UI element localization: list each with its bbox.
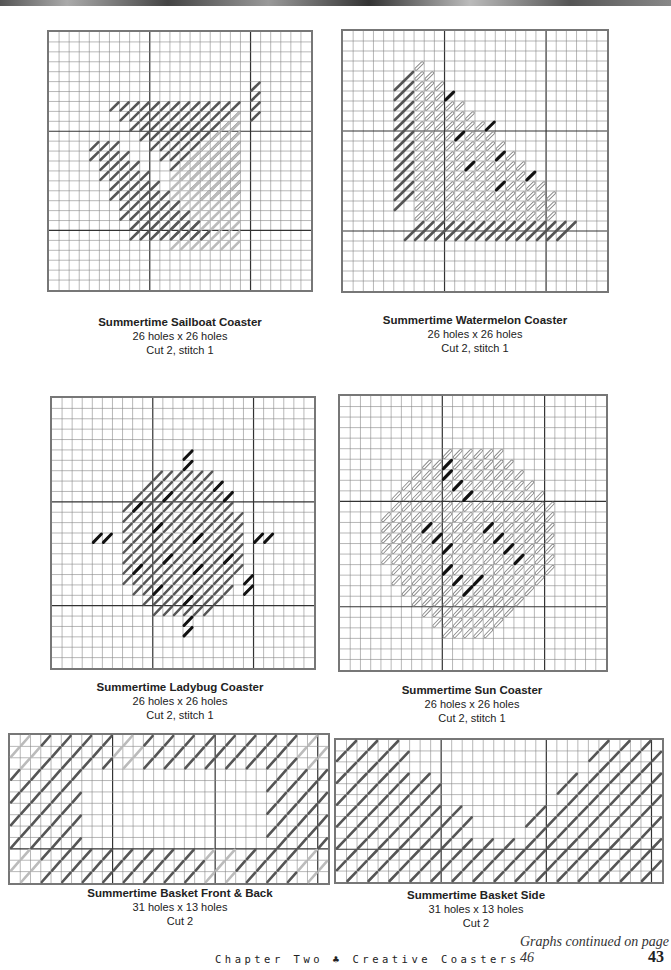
graph-cut: Cut 2: [346, 916, 606, 930]
graph-title: Summertime Sailboat Coaster: [50, 315, 310, 329]
sailboat-caption: Summertime Sailboat Coaster 26 holes x 2…: [50, 315, 310, 357]
graph-size: 31 holes x 13 holes: [50, 900, 310, 914]
graph-size: 26 holes x 26 holes: [50, 329, 310, 343]
graph-cut: Cut 2: [50, 914, 310, 928]
graph-title: Summertime Basket Front & Back: [50, 886, 310, 900]
page-number: 43: [648, 948, 664, 966]
watermelon-caption: Summertime Watermelon Coaster 26 holes x…: [345, 313, 605, 355]
sailboat-graph: [47, 30, 313, 292]
graph-cut: Cut 2, stitch 1: [342, 711, 602, 725]
sun-caption: Summertime Sun Coaster 26 holes x 26 hol…: [342, 683, 602, 725]
ladybug-caption: Summertime Ladybug Coaster 26 holes x 26…: [50, 680, 310, 722]
basket-front-back-graph: [8, 733, 330, 885]
chapter-footer: Chapter Two ♣ Creative Coasters: [215, 953, 519, 965]
basket-side-graph: [334, 738, 664, 884]
graph-cut: Cut 2, stitch 1: [345, 341, 605, 355]
ladybug-graph: [50, 396, 316, 670]
page-header-banner: [0, 0, 671, 6]
graph-cut: Cut 2, stitch 1: [50, 708, 310, 722]
graph-size: 26 holes x 26 holes: [342, 697, 602, 711]
watermelon-graph: [341, 29, 609, 293]
graph-size: 26 holes x 26 holes: [50, 694, 310, 708]
graph-title: Summertime Ladybug Coaster: [50, 680, 310, 694]
graph-title: Summertime Watermelon Coaster: [345, 313, 605, 327]
graph-title: Summertime Basket Side: [346, 888, 606, 902]
graph-title: Summertime Sun Coaster: [342, 683, 602, 697]
graph-cut: Cut 2, stitch 1: [50, 343, 310, 357]
basket-front-back-caption: Summertime Basket Front & Back 31 holes …: [50, 886, 310, 928]
graph-size: 31 holes x 13 holes: [346, 902, 606, 916]
graph-size: 26 holes x 26 holes: [345, 327, 605, 341]
basket-side-caption: Summertime Basket Side 31 holes x 13 hol…: [346, 888, 606, 930]
sun-graph: [338, 394, 608, 672]
